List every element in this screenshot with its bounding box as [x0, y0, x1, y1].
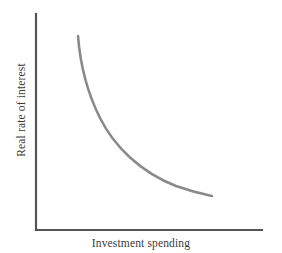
investment-demand-curve [78, 36, 212, 196]
chart-canvas [0, 0, 282, 253]
investment-demand-figure: Real rate of interest Investment spendin… [0, 0, 282, 253]
data-series-group [78, 36, 212, 196]
axes-group [36, 14, 262, 230]
y-axis-label: Real rate of interest [14, 50, 28, 170]
x-axis-label: Investment spending [0, 236, 282, 250]
